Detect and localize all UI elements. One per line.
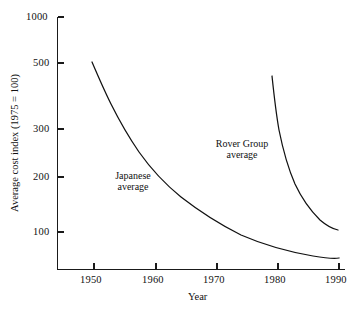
chart-container: Average cost index (1975 = 100) 1000 500… — [0, 0, 360, 311]
series-annotation-rover-line2: average — [206, 149, 278, 160]
series-line-rover-group-average — [272, 76, 338, 230]
series-annotation-japanese-line2: average — [104, 181, 162, 192]
y-tick-label-500: 500 — [33, 57, 49, 68]
y-tick-label-300: 300 — [33, 123, 49, 134]
x-axis-title: Year — [188, 291, 207, 302]
x-tick-label-1980: 1980 — [264, 274, 286, 285]
chart-plot-area: Average cost index (1975 = 100) — [0, 0, 360, 311]
series-annotation-japanese-line1: Japanese — [104, 170, 162, 181]
x-tick-label-1970: 1970 — [203, 274, 225, 285]
x-tick-label-1950: 1950 — [80, 274, 102, 285]
x-tick-label-1990: 1990 — [325, 274, 347, 285]
x-tick-label-1960: 1960 — [142, 274, 164, 285]
series-annotation-rover-group-average: Rover Group average — [206, 138, 278, 160]
series-annotation-japanese-average: Japanese average — [104, 170, 162, 192]
y-axis-title: Average cost index (1975 = 100) — [9, 74, 21, 212]
y-tick-label-1000: 1000 — [26, 11, 48, 22]
y-tick-label-100: 100 — [33, 226, 49, 237]
series-annotation-rover-line1: Rover Group — [206, 138, 278, 149]
y-tick-label-200: 200 — [33, 171, 49, 182]
